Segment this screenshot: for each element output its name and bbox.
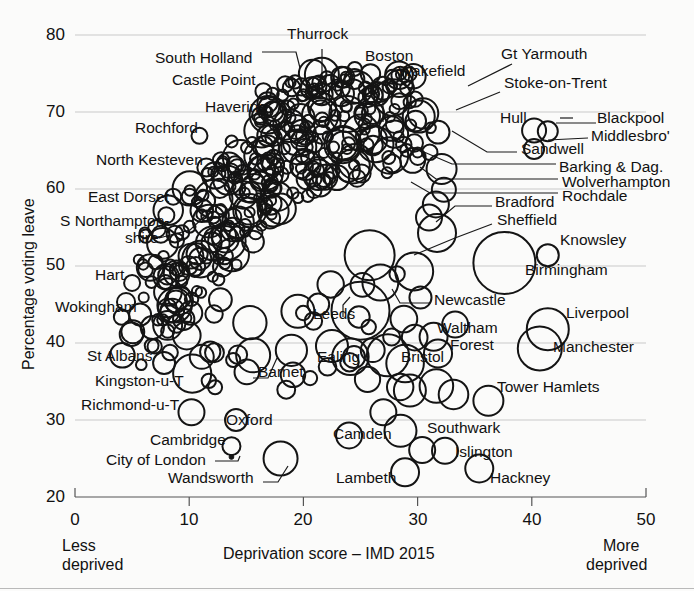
point-label-stoke-on-trent: Stoke-on-Trent — [504, 74, 607, 92]
x-tick-10: 10 — [173, 510, 205, 530]
y-tick-30: 30 — [33, 410, 65, 430]
point-label-bradford: Bradford — [495, 193, 554, 211]
bubble-marker-richmond-u-t — [178, 399, 204, 425]
point-label-wokingham: Wokingham — [55, 298, 137, 316]
bubble-marker — [205, 305, 222, 322]
leader-south-holland — [262, 52, 300, 68]
bubble-marker — [317, 271, 343, 297]
left-endcap-line2: deprived — [62, 556, 123, 574]
point-label-north-kesteven: North Kesteven — [96, 151, 203, 169]
point-label-wandsworth: Wandsworth — [168, 469, 254, 487]
bubble-marker-sheffield — [345, 230, 395, 280]
point-label-rochdale: Rochdale — [562, 187, 628, 205]
point-label-s-northampton: S Northampton- — [60, 212, 169, 230]
y-tick-20: 20 — [33, 487, 65, 507]
bubble-marker-hart — [124, 275, 140, 291]
bubble-marker — [276, 335, 307, 366]
x-axis-title: Deprivation score – IMD 2015 — [223, 545, 435, 563]
left-endcap-line1: Less — [62, 537, 96, 555]
bubble-marker — [391, 306, 418, 333]
point-label-birmingham: Birmingham — [525, 261, 608, 279]
point-label-richmond-u-t: Richmond-u-T — [81, 396, 179, 414]
point-label-wakefield: Wakefield — [398, 62, 465, 80]
axis-lines — [75, 488, 646, 506]
point-label-knowsley: Knowsley — [560, 231, 626, 249]
point-label-havering: Havering — [205, 98, 267, 116]
point-label-castle-point: Castle Point — [172, 71, 256, 89]
leader-stoke-on-trent — [456, 92, 500, 110]
x-tick-50: 50 — [630, 510, 662, 530]
point-label-east-dorset: East Dorset — [88, 188, 169, 206]
point-label-st-albans: St Albans — [87, 347, 153, 365]
y-tick-60: 60 — [33, 178, 65, 198]
bubble-marker-barking-dag- — [432, 178, 456, 202]
point-label-tower-hamlets: Tower Hamlets — [497, 378, 600, 396]
bubble-marker — [355, 367, 380, 392]
leader-sheffield — [414, 224, 492, 255]
point-label-ealing: Ealing — [317, 348, 360, 366]
point-label-barnet: Barnet — [258, 363, 304, 381]
point-label-blackpool: Blackpool — [597, 109, 664, 127]
point-label-bristol: Bristol — [401, 348, 444, 366]
point-label-gt-yarmouth: Gt Yarmouth — [501, 45, 587, 63]
right-endcap-line1: More — [603, 537, 639, 555]
bubble-marker-southwark-upper — [370, 399, 396, 425]
x-tick-40: 40 — [516, 510, 548, 530]
scatter-chart: 80 70 60 50 40 30 20 0 10 20 30 40 50 Pe… — [0, 0, 694, 591]
point-label-leeds: Leeds — [313, 305, 355, 323]
point-label-hackney: Hackney — [490, 469, 550, 487]
x-tick-20: 20 — [287, 510, 319, 530]
bubble-marker-bradford — [418, 214, 456, 252]
point-label-forest: Forest — [450, 336, 494, 354]
point-label-shire: shire — [125, 229, 159, 247]
point-label-camden: Camden — [333, 425, 392, 443]
x-tick-0: 0 — [59, 510, 91, 530]
point-label-south-holland: South Holland — [155, 49, 252, 67]
point-label-liverpool: Liverpool — [566, 304, 629, 322]
point-label-manchester: Manchester — [553, 338, 634, 356]
bubble-marker-wandsworth — [264, 442, 298, 476]
point-label-lambeth: Lambeth — [336, 469, 396, 487]
point-label-hull: Hull — [500, 109, 527, 127]
point-label-cambridge: Cambridge — [150, 431, 226, 449]
point-label-middlesbro: Middlesbro' — [591, 127, 670, 145]
bubble-marker-city-of-london — [229, 455, 234, 460]
bubble-marker — [233, 306, 266, 339]
bubble-marker-blackpool — [538, 121, 558, 141]
y-tick-80: 80 — [33, 25, 65, 45]
bubble-marker-newcastle — [395, 252, 433, 290]
y-tick-70: 70 — [33, 102, 65, 122]
y-axis-title: Percentage voting leave — [20, 198, 38, 370]
point-label-newcastle: Newcastle — [434, 291, 506, 309]
bubble-marker-st-albans — [153, 352, 175, 374]
x-tick-30: 30 — [402, 510, 434, 530]
leader-sandwell — [452, 131, 517, 152]
bubble-marker — [277, 381, 295, 399]
point-label-city-of-london: City of London — [106, 451, 206, 469]
point-label-waltham: Waltham — [437, 319, 498, 337]
right-endcap-line2: deprived — [586, 556, 647, 574]
leader-city-of-london — [215, 456, 240, 461]
point-label-kingston-u-t: Kingston-u-T — [95, 372, 184, 390]
point-label-sandwell: Sandwell — [521, 140, 584, 158]
point-label-sheffield: Sheffield — [497, 211, 557, 229]
point-label-southwark: Southwark — [427, 419, 500, 437]
point-label-islington: Islington — [455, 443, 513, 461]
point-label-oxford: Oxford — [226, 411, 273, 429]
point-label-hart: Hart — [95, 266, 124, 284]
point-label-thurrock: Thurrock — [287, 25, 348, 43]
bubble-marker — [139, 292, 149, 302]
bottom-rule — [0, 588, 694, 589]
point-label-rochford: Rochford — [135, 119, 198, 137]
